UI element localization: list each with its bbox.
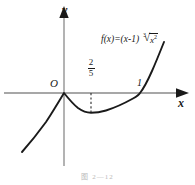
figure-caption: 图 2—12 — [0, 171, 195, 181]
fraction-numerator: 2 — [84, 58, 98, 67]
radical-body: x2 — [149, 33, 158, 45]
x-axis-label: x — [178, 97, 184, 109]
radicand-exponent: 2 — [154, 34, 157, 40]
y-axis-label: y — [62, 4, 67, 16]
cube-root-radical: 3 √ x2 — [143, 33, 158, 45]
x-tick-label-one: 1 — [137, 78, 142, 88]
radical-index: 3 — [143, 32, 146, 38]
plot-area — [0, 0, 195, 185]
function-expression-label: f(x)=(x-1) 3 √ x2 — [101, 33, 158, 45]
fraction-denominator: 5 — [84, 69, 98, 78]
origin-label: O — [50, 78, 58, 89]
function-expression-text: f(x)=(x-1) — [101, 34, 139, 44]
function-graph-figure: y x O 2 5 1 f(x)=(x-1) 3 √ x2 图 2—12 — [0, 0, 195, 185]
x-tick-label-two-fifths: 2 5 — [84, 58, 98, 79]
